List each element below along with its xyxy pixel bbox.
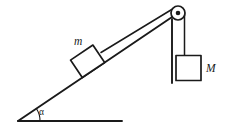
block-on-incline bbox=[71, 45, 105, 78]
block-m-label: m bbox=[74, 35, 82, 47]
block-M-label: M bbox=[205, 62, 217, 74]
block-on-incline-body bbox=[71, 45, 105, 78]
physics-diagram: α m M bbox=[0, 0, 225, 130]
angle-label: α bbox=[39, 107, 44, 117]
pulley-axle bbox=[176, 11, 181, 16]
hanging-block bbox=[176, 56, 201, 81]
rope-along-incline bbox=[101, 8, 175, 53]
diagram-canvas: α m M bbox=[0, 0, 225, 130]
